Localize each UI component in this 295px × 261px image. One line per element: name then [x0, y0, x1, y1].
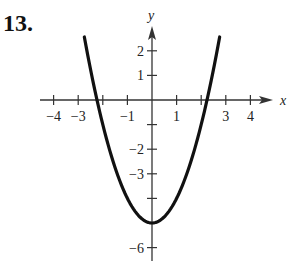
- y-tick-label: −2: [129, 142, 144, 157]
- x-axis-label: x: [279, 93, 287, 108]
- x-tick-label: −3: [71, 109, 86, 124]
- x-tick-label: 3: [222, 109, 229, 124]
- y-tick-label: 1: [137, 68, 144, 83]
- axes: xy: [40, 8, 287, 261]
- x-tick-label: 1: [173, 109, 180, 124]
- y-tick-label: 2: [137, 44, 144, 59]
- y-axis-label: y: [146, 8, 155, 23]
- x-tick-label: 4: [247, 109, 254, 124]
- y-tick-label: −6: [129, 241, 144, 256]
- x-tick-label: −1: [120, 109, 135, 124]
- parabola-graph: xy −4−3−1134−6−3−212: [0, 0, 295, 261]
- y-tick-label: −3: [129, 167, 144, 182]
- x-tick-label: −4: [46, 109, 61, 124]
